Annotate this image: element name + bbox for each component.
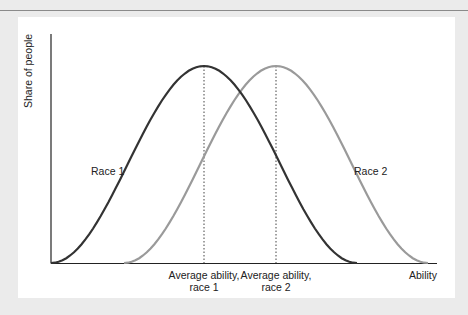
mean-label-race-2-line1: Average ability, <box>230 269 322 281</box>
x-axis-label: Ability <box>409 269 437 281</box>
chart-svg <box>0 0 468 315</box>
series-label-race-2: Race 2 <box>354 165 387 177</box>
mean-label-race-2-line2: race 2 <box>230 281 322 293</box>
mean-label-race-2: Average ability, race 2 <box>230 269 322 293</box>
series-label-race-1: Race 1 <box>91 165 124 177</box>
y-axis-label: Share of people <box>22 34 34 108</box>
